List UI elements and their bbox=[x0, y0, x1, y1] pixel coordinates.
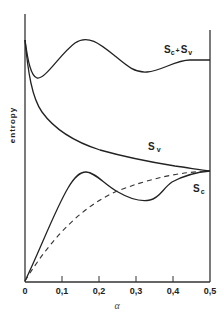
x-tick-0: 0 bbox=[22, 286, 27, 296]
curve-sv bbox=[25, 40, 210, 171]
entropy-chart: 0 0,1 0,2 0,3 0,4 0,5 α entropy Sc+Sv Sv… bbox=[0, 0, 224, 321]
label-sc-plus-sv: Sc+Sv bbox=[164, 44, 192, 56]
x-tick-4: 0,4 bbox=[167, 286, 180, 296]
curve-dashed-reference bbox=[25, 171, 210, 281]
x-tick-1: 0,1 bbox=[56, 286, 69, 296]
label-sv: Sv bbox=[148, 141, 161, 153]
x-tick-3: 0,3 bbox=[130, 286, 143, 296]
y-axis-label: entropy bbox=[8, 107, 17, 143]
x-tick-5: 0,5 bbox=[204, 286, 217, 296]
x-tick-labels: 0 0,1 0,2 0,3 0,4 0,5 bbox=[22, 286, 216, 296]
label-sc: Sc bbox=[193, 183, 205, 195]
x-tick-2: 0,2 bbox=[93, 286, 106, 296]
x-ticks bbox=[62, 276, 173, 282]
curve-sc bbox=[25, 171, 210, 281]
x-axis-label: α bbox=[114, 300, 120, 311]
